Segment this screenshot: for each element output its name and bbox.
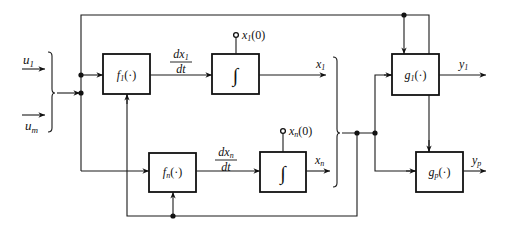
state-to-g1-line — [375, 75, 392, 133]
gp-block: gp(·) — [416, 152, 463, 192]
integrator-1-block: ∫ — [212, 54, 259, 94]
block-diagram: u1 um f1(·) dx1 dt ∫ x1(0) x1 fn(·) — [0, 0, 510, 235]
svg-text:um: um — [25, 118, 39, 135]
svg-text:dt: dt — [176, 62, 186, 76]
x10-terminal-icon — [234, 33, 239, 38]
svg-text:g1(·): g1(·) — [405, 68, 427, 83]
state-to-gp-line — [375, 133, 416, 171]
yp-label: yp — [471, 153, 481, 168]
xn0-label: xn(0) — [288, 124, 312, 139]
dxn-dt-label: dxn dt — [215, 145, 237, 174]
input-u1: u1 — [22, 52, 45, 69]
x10-label: x1(0) — [241, 28, 265, 43]
f1-block: f1(·) — [103, 54, 150, 94]
integrator-n-block: ∫ — [260, 152, 306, 192]
dx1-dt-label: dx1 dt — [170, 47, 192, 76]
svg-text:f1(·): f1(·) — [117, 68, 136, 83]
svg-text:dx1: dx1 — [173, 47, 188, 62]
state-brace — [333, 57, 340, 187]
x1-label: x1 — [315, 57, 325, 72]
input-brace — [48, 52, 55, 132]
input-um: um — [22, 115, 45, 135]
fn-block: fn(·) — [149, 153, 196, 192]
svg-text:gp(·): gp(·) — [429, 165, 451, 180]
svg-text:fn(·): fn(·) — [163, 165, 182, 180]
xn-label: xn — [314, 153, 324, 168]
g1-block: g1(·) — [392, 54, 439, 95]
svg-text:dt: dt — [221, 160, 231, 174]
xn0-terminal-icon — [281, 129, 286, 134]
svg-text:dxn: dxn — [218, 145, 233, 160]
y1-label: y1 — [458, 57, 468, 72]
svg-text:u1: u1 — [23, 52, 34, 69]
junction-dot — [78, 90, 83, 95]
